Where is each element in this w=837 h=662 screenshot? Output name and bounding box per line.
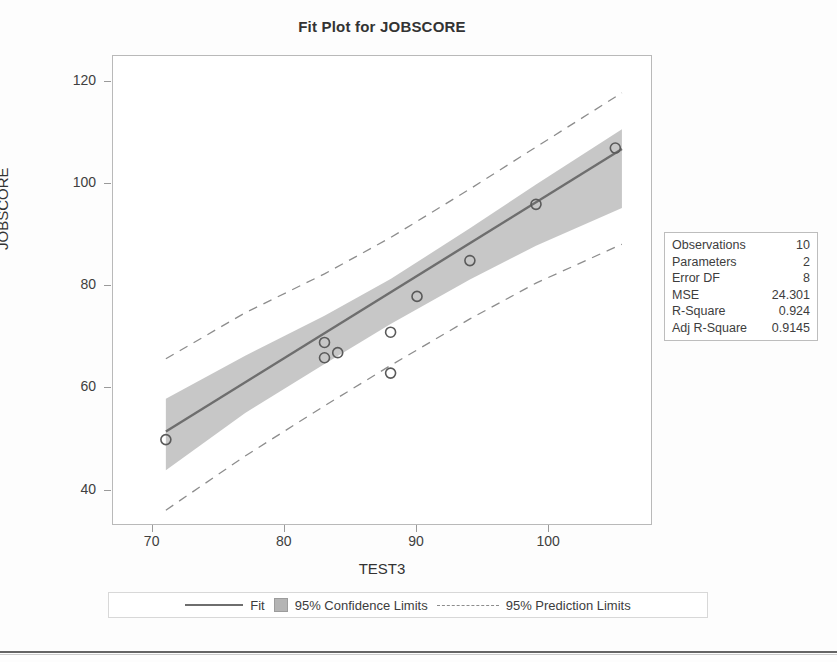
fit-statistics-box: Observations10Parameters2Error DF8MSE24.… (664, 232, 818, 341)
y-tick-label: 60 (50, 378, 96, 394)
confidence-band-icon (274, 598, 288, 612)
stat-value: 2 (803, 254, 810, 271)
stat-value: 0.9145 (772, 320, 810, 337)
page-rule (0, 651, 837, 653)
stat-row: Parameters2 (665, 254, 817, 271)
figure-page: Fit Plot for JOBSCORE JOBSCORE TEST3 406… (0, 0, 837, 662)
chart-legend: Fit 95% Confidence Limits 95% Prediction… (108, 592, 708, 618)
fit-line (166, 149, 622, 431)
prediction-line-icon (437, 605, 499, 606)
y-tick-mark (104, 490, 111, 491)
stat-key: MSE (672, 287, 699, 304)
x-tick-mark (416, 525, 417, 532)
stat-key: Adj R-Square (672, 320, 747, 337)
stat-row: Observations10 (665, 237, 817, 254)
stat-value: 24.301 (772, 287, 810, 304)
y-tick-mark (104, 183, 111, 184)
stat-key: Error DF (672, 270, 720, 287)
stat-value: 0.924 (779, 303, 810, 320)
stat-value: 8 (803, 270, 810, 287)
y-tick-label: 100 (50, 174, 96, 190)
legend-item-prediction: 95% Prediction Limits (437, 598, 631, 613)
x-tick-label: 100 (523, 533, 573, 549)
x-axis-label: TEST3 (112, 560, 652, 577)
legend-label-confidence: 95% Confidence Limits (295, 598, 428, 613)
y-tick-mark (104, 81, 111, 82)
x-tick-label: 90 (391, 533, 441, 549)
stat-key: R-Square (672, 303, 726, 320)
x-tick-label: 70 (127, 533, 177, 549)
y-tick-mark (104, 387, 111, 388)
y-tick-label: 40 (50, 481, 96, 497)
y-tick-mark (104, 285, 111, 286)
x-tick-mark (152, 525, 153, 532)
legend-label-prediction: 95% Prediction Limits (506, 598, 631, 613)
stat-row: Adj R-Square0.9145 (665, 320, 817, 337)
confidence-band (166, 129, 622, 470)
data-point (386, 327, 396, 337)
page-rule-shadow (0, 654, 837, 655)
x-tick-mark (548, 525, 549, 532)
data-point (386, 368, 396, 378)
x-tick-mark (284, 525, 285, 532)
y-axis-label: JOBSCORE (0, 167, 11, 250)
plot-area (112, 55, 652, 525)
fit-line-icon (185, 604, 243, 606)
legend-item-confidence: 95% Confidence Limits (274, 598, 428, 613)
chart-title: Fit Plot for JOBSCORE (112, 18, 652, 35)
stat-row: MSE24.301 (665, 287, 817, 304)
y-tick-label: 80 (50, 276, 96, 292)
y-tick-label: 120 (50, 72, 96, 88)
x-tick-label: 80 (259, 533, 309, 549)
stat-row: R-Square0.924 (665, 303, 817, 320)
stat-key: Observations (672, 237, 746, 254)
legend-label-fit: Fit (250, 598, 264, 613)
stat-key: Parameters (672, 254, 737, 271)
plot-canvas (113, 56, 651, 524)
stat-value: 10 (796, 237, 810, 254)
stat-row: Error DF8 (665, 270, 817, 287)
legend-item-fit: Fit (185, 598, 264, 613)
